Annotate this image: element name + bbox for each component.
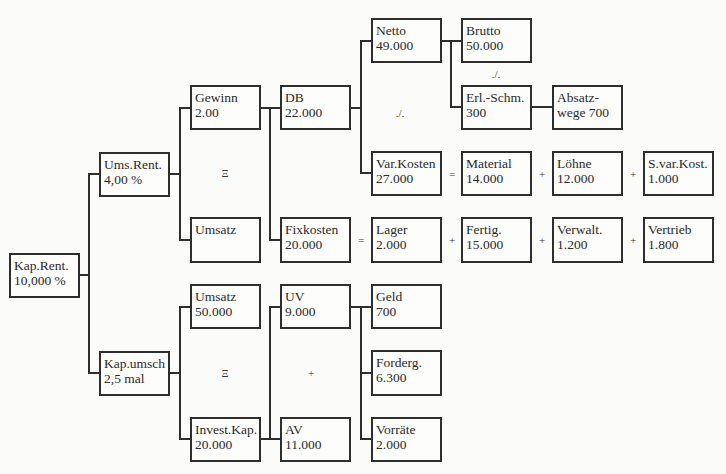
operator-divide: Ξ — [221, 167, 228, 179]
connector — [450, 106, 461, 108]
node-value: 300 — [466, 105, 530, 120]
connector — [179, 107, 190, 109]
node-label: Fertig. — [466, 222, 530, 237]
node-s-var-kost: S.var.Kost. 1.000 — [643, 151, 714, 196]
connector — [179, 306, 190, 308]
kennzahlen-tree-diagram: Kap.Rent. 10,000 % Ums.Rent. 4,00 % Kap.… — [0, 0, 726, 474]
node-lager: Lager 2.000 — [371, 217, 442, 263]
node-label: Kap.Rent. — [14, 258, 78, 273]
node-label: Lager — [376, 222, 440, 237]
connector — [179, 306, 181, 440]
node-label: S.var.Kost. — [648, 156, 712, 171]
connector — [88, 173, 99, 175]
node-label: Netto — [376, 23, 440, 38]
node-value: 27.000 — [376, 171, 440, 186]
node-label: Gewinn — [195, 90, 259, 105]
node-umsatz-bottom: Umsatz 50.000 — [190, 284, 261, 329]
node-umsatz-top: Umsatz — [190, 217, 261, 263]
node-value: 22.000 — [285, 105, 349, 120]
node-uv: UV 9.000 — [280, 284, 351, 329]
node-label: Umsatz — [195, 222, 259, 237]
operator-minus: ./. — [492, 68, 501, 80]
node-absatzwege: Absatz- wege 700 — [552, 85, 623, 130]
connector — [360, 438, 371, 440]
node-fixkosten: Fixkosten 20.000 — [280, 217, 351, 263]
node-loehne: Löhne 12.000 — [552, 151, 623, 196]
operator-plus: + — [449, 234, 455, 246]
node-label: Brutto — [466, 23, 530, 38]
node-value: 20.000 — [285, 237, 349, 252]
connector — [88, 173, 90, 373]
node-value: 4,00 % — [104, 172, 168, 187]
node-brutto: Brutto 50.000 — [461, 18, 532, 63]
connector — [269, 239, 280, 241]
node-label: Verwalt. — [557, 222, 621, 237]
node-vertrieb: Vertrieb 1.800 — [643, 217, 714, 263]
connector — [360, 40, 371, 42]
connector — [269, 107, 271, 241]
node-label: Ums.Rent. — [104, 157, 168, 172]
node-value: 49.000 — [376, 38, 440, 53]
connector — [450, 40, 452, 108]
connector — [360, 172, 371, 174]
node-value: 12.000 — [557, 171, 621, 186]
node-value: 2.000 — [376, 237, 440, 252]
connector — [179, 239, 190, 241]
node-label: Var.Kosten — [376, 156, 440, 171]
connector — [532, 106, 552, 108]
node-value: 50.000 — [466, 38, 530, 53]
node-gewinn: Gewinn 2.00 — [190, 85, 261, 130]
node-value: 14.000 — [466, 171, 530, 186]
node-value: 1.800 — [648, 237, 712, 252]
node-value: 1.000 — [648, 171, 712, 186]
node-value: 1.200 — [557, 237, 621, 252]
operator-plus: + — [630, 168, 636, 180]
operator-equals: = — [358, 234, 364, 246]
connector — [179, 107, 181, 241]
node-label: Invest.Kap. — [195, 422, 259, 437]
node-value: 11.000 — [285, 437, 349, 452]
connector — [360, 372, 371, 374]
node-label: Absatz- — [557, 90, 621, 105]
node-value: 2.00 — [195, 105, 259, 120]
node-label: AV — [285, 422, 349, 437]
node-fertig: Fertig. 15.000 — [461, 217, 532, 263]
node-erl-schm: Erl.-Schm. 300 — [461, 85, 532, 130]
node-value: 700 — [376, 304, 440, 319]
operator-plus: + — [539, 168, 545, 180]
operator-plus: + — [630, 234, 636, 246]
node-forderg: Forderg. 6.300 — [371, 350, 442, 396]
node-label: Fixkosten — [285, 222, 349, 237]
connector — [269, 306, 271, 440]
node-value: 15.000 — [466, 237, 530, 252]
node-vorraete: Vorräte 2.000 — [371, 417, 442, 462]
node-value: 10,000 % — [14, 273, 78, 288]
node-label: Kap.umsch — [104, 356, 168, 371]
node-verwalt: Verwalt. 1.200 — [552, 217, 623, 263]
node-ums-rent: Ums.Rent. 4,00 % — [99, 152, 170, 197]
node-label: Vertrieb — [648, 222, 712, 237]
connector — [360, 40, 362, 174]
node-value: 50.000 — [195, 304, 259, 319]
node-kap-rent: Kap.Rent. 10,000 % — [9, 253, 80, 298]
node-invest-kap: Invest.Kap. 20.000 — [190, 417, 261, 462]
connector — [88, 372, 99, 374]
connector — [179, 438, 190, 440]
node-value: 20.000 — [195, 437, 259, 452]
node-label: Vorräte — [376, 422, 440, 437]
operator-plus: + — [308, 367, 314, 379]
node-netto: Netto 49.000 — [371, 18, 442, 63]
node-label: UV — [285, 289, 349, 304]
node-value: 2.000 — [376, 437, 440, 452]
node-label: Erl.-Schm. — [466, 90, 530, 105]
node-material: Material 14.000 — [461, 151, 532, 196]
node-label: Umsatz — [195, 289, 259, 304]
node-label: Forderg. — [376, 355, 440, 370]
node-geld: Geld 700 — [371, 284, 442, 329]
node-value: 9.000 — [285, 304, 349, 319]
operator-minus: ./. — [396, 107, 405, 119]
node-var-kosten: Var.Kosten 27.000 — [371, 151, 442, 196]
node-label: Löhne — [557, 156, 621, 171]
node-av: AV 11.000 — [280, 417, 351, 462]
node-value: wege 700 — [557, 105, 621, 120]
